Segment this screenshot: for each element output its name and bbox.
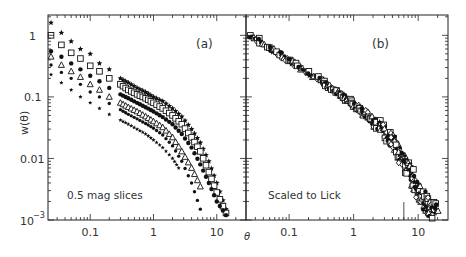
ytick-1: 1 xyxy=(29,30,36,43)
xtick-label: 0.1 xyxy=(81,226,99,239)
series-small-star xyxy=(49,72,181,169)
x-tick-labels: 0.11100.1110 xyxy=(81,226,425,239)
y-axis-label: w(θ) xyxy=(18,111,31,135)
panel-b-label: (b) xyxy=(372,37,389,51)
xtick-label: 1 xyxy=(150,226,157,239)
ytick-0.001-base: 10 xyxy=(20,215,34,228)
xtick-label: 1 xyxy=(350,226,357,239)
panel-b-annotation: Scaled to Lick xyxy=(268,189,342,201)
xtick-label: 10 xyxy=(411,226,425,239)
ytick-0.01: 0.01 xyxy=(20,153,45,166)
ytick-0.1: 0.1 xyxy=(24,91,42,104)
correlation-function-figure: (b) (a) 0.5 mag slices Scaled to Lick 1 … xyxy=(0,0,466,257)
ytick-0.001-exp: −3 xyxy=(33,211,45,220)
xtick-label: 10 xyxy=(210,226,224,239)
x-axis-label: θ xyxy=(244,231,250,242)
xtick-label: 0.1 xyxy=(280,226,298,239)
panel-a-annotation: 0.5 mag slices xyxy=(67,189,143,201)
panel-a-label: (a) xyxy=(196,37,213,51)
